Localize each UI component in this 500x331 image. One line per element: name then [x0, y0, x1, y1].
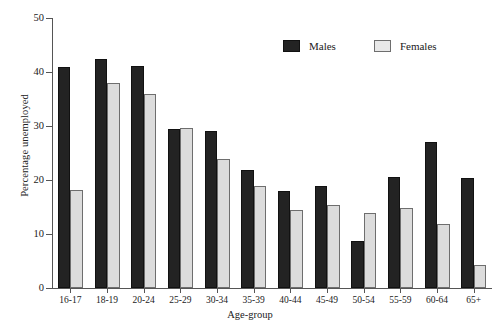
bar-males-35-39	[241, 170, 254, 288]
bar-males-40-44	[278, 191, 291, 288]
y-tick-label-wrap: 0	[0, 283, 44, 293]
x-tick-mark	[180, 288, 181, 293]
x-tick-mark	[437, 288, 438, 293]
x-tick-label: 45-49	[307, 295, 347, 306]
chart-legend: Males Females	[283, 40, 437, 52]
y-tick-label: 0	[4, 283, 44, 293]
y-tick-label-wrap: 50	[0, 13, 44, 23]
legend-label-females: Females	[400, 40, 437, 52]
x-tick-label: 50-54	[344, 295, 384, 306]
x-tick-mark	[70, 288, 71, 293]
unemployment-bar-chart: 01020304050 Percentage unemployed 16-171…	[0, 0, 500, 331]
bar-males-16-17	[58, 67, 71, 288]
bar-males-25-29	[168, 129, 181, 288]
x-tick-label: 65+	[454, 295, 494, 306]
x-tick-label: 35-39	[234, 295, 274, 306]
x-tick-mark	[107, 288, 108, 293]
legend-label-males: Males	[309, 40, 336, 52]
bar-females-20-24	[144, 94, 157, 288]
bar-males-65+	[461, 178, 474, 288]
bar-males-20-24	[131, 66, 144, 288]
bar-males-18-19	[95, 59, 108, 289]
males-swatch-icon	[283, 40, 300, 52]
bar-males-55-59	[388, 177, 401, 288]
x-tick-label: 40-44	[270, 295, 310, 306]
y-tick-label: 50	[4, 13, 44, 23]
x-tick-mark	[400, 288, 401, 293]
x-tick-mark	[327, 288, 328, 293]
bar-females-30-34	[217, 159, 230, 288]
females-swatch-icon	[374, 40, 391, 52]
bar-females-65+	[474, 265, 487, 288]
legend-item-males: Males	[283, 40, 336, 52]
x-axis-line	[52, 288, 492, 289]
x-tick-label: 30-34	[197, 295, 237, 306]
bar-females-35-39	[254, 186, 267, 288]
bar-males-50-54	[351, 241, 364, 288]
bar-females-60-64	[437, 224, 450, 288]
x-tick-mark	[290, 288, 291, 293]
bar-females-16-17	[70, 190, 83, 288]
x-tick-mark	[144, 288, 145, 293]
bar-females-50-54	[364, 213, 377, 288]
bar-males-60-64	[425, 142, 438, 288]
bar-females-40-44	[290, 210, 303, 288]
x-tick-mark	[364, 288, 365, 293]
x-tick-label: 55-59	[380, 295, 420, 306]
x-tick-label: 60-64	[417, 295, 457, 306]
plot-area	[52, 18, 492, 288]
x-tick-mark	[474, 288, 475, 293]
bar-females-25-29	[180, 128, 193, 288]
bar-females-45-49	[327, 205, 340, 288]
y-axis-title: Percentage unemployed	[19, 56, 30, 236]
x-tick-mark	[217, 288, 218, 293]
bar-males-30-34	[205, 131, 218, 288]
x-tick-label: 20-24	[124, 295, 164, 306]
bar-females-18-19	[107, 83, 120, 288]
bar-males-45-49	[315, 186, 328, 288]
legend-item-females: Females	[374, 40, 437, 52]
x-tick-label: 16-17	[50, 295, 90, 306]
bar-females-55-59	[400, 208, 413, 288]
x-tick-label: 25-29	[160, 295, 200, 306]
x-axis-title: Age-group	[0, 309, 500, 320]
x-tick-mark	[254, 288, 255, 293]
x-tick-label: 18-19	[87, 295, 127, 306]
